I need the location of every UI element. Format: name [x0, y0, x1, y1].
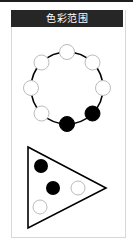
triangle-diagram	[28, 147, 106, 228]
ring-node-bottom	[60, 117, 75, 132]
triangle-node-right	[71, 181, 85, 195]
diagram-canvas	[0, 0, 133, 246]
ring-node-top-left	[34, 55, 49, 70]
ring-node-left	[24, 81, 39, 96]
ring-node-bottom-left	[34, 106, 49, 121]
ring-node-right	[96, 81, 111, 96]
ring-node-top-right	[85, 55, 100, 70]
triangle-node-top-left	[34, 159, 48, 173]
triangle-node-bottom-left	[33, 200, 47, 214]
ring-node-bottom-right	[85, 106, 100, 121]
ring-node-top	[60, 45, 75, 60]
triangle-node-center	[46, 181, 60, 195]
ring-diagram	[24, 45, 111, 132]
